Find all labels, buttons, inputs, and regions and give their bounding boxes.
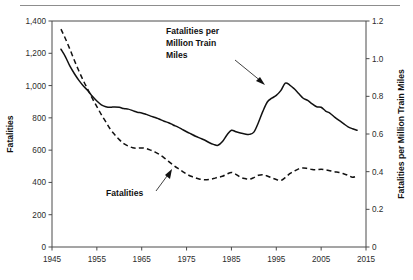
right-tick-label: 1.2	[372, 17, 384, 26]
right-axis-ticks	[366, 21, 370, 247]
x-tick-label: 2015	[357, 255, 376, 264]
right-axis-tick-labels: 00.20.40.60.81.01.2	[372, 17, 384, 252]
x-tick-label: 2005	[312, 255, 331, 264]
fatalities-annotation-group: Fatalities	[106, 169, 172, 198]
rate-annotation-group: Fatalities per Million Train Miles	[166, 26, 265, 85]
x-tick-label: 1975	[177, 255, 196, 264]
chart-figure: 02004006008001,0001,2001,400 00.20.40.60…	[0, 0, 413, 280]
x-axis-tick-labels: 19451955196519751985199520052015	[43, 255, 376, 264]
x-tick-label: 1945	[43, 255, 62, 264]
rate-annotation-line3: Miles	[166, 50, 188, 60]
left-tick-label: 800	[32, 114, 46, 123]
left-axis-tick-labels: 02004006008001,0001,2001,400	[26, 17, 47, 252]
left-tick-label: 600	[32, 146, 46, 155]
left-tick-label: 1,000	[26, 82, 47, 91]
right-axis-title: Fatalities per Million Train Miles	[396, 69, 406, 199]
left-tick-label: 0	[41, 243, 46, 252]
x-axis-ticks	[52, 247, 366, 251]
rate-annotation-line2: Million Train	[166, 38, 216, 48]
left-tick-label: 200	[32, 211, 46, 220]
left-axis-title: Fatalities	[5, 115, 15, 152]
left-tick-label: 1,400	[26, 17, 47, 26]
right-tick-label: 0.4	[372, 168, 384, 177]
left-tick-label: 1,200	[26, 49, 47, 58]
x-tick-label: 1995	[267, 255, 286, 264]
x-tick-label: 1955	[88, 255, 107, 264]
right-tick-label: 0.6	[372, 130, 384, 139]
right-tick-label: 0.8	[372, 92, 384, 101]
right-tick-label: 1.0	[372, 55, 384, 64]
chart-plot-area: 02004006008001,0001,2001,400 00.20.40.60…	[0, 0, 413, 280]
right-tick-label: 0	[372, 243, 377, 252]
x-tick-label: 1985	[222, 255, 241, 264]
x-tick-label: 1965	[133, 255, 152, 264]
series-line-fatalities-per-million-train-miles	[61, 49, 357, 145]
right-tick-label: 0.2	[372, 205, 384, 214]
rate-annotation-leader-line	[235, 60, 262, 82]
left-axis-ticks	[49, 21, 53, 247]
rate-annotation-line1: Fatalities per	[166, 26, 220, 36]
fatalities-annotation-label: Fatalities	[106, 188, 143, 198]
left-tick-label: 400	[32, 178, 46, 187]
